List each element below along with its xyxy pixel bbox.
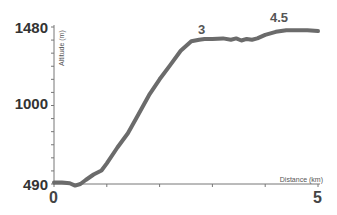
y-tick-label: 1480 — [2, 20, 48, 35]
y-tick-label: 1000 — [2, 96, 48, 111]
x-tick-label: 0 — [49, 190, 58, 206]
y-axis-title: Altitude (m) — [58, 30, 65, 66]
axes — [51, 25, 320, 187]
km-annotation: 3 — [198, 22, 205, 37]
x-axis-title: Distance (km) — [280, 176, 323, 183]
x-tick-label: 5 — [313, 190, 322, 206]
altitude-line — [54, 30, 318, 185]
elevation-profile-chart: 49010001480 05 Altitude (m) Distance (km… — [0, 0, 337, 215]
y-tick-label: 490 — [2, 177, 48, 192]
km-annotation: 4.5 — [270, 10, 288, 25]
